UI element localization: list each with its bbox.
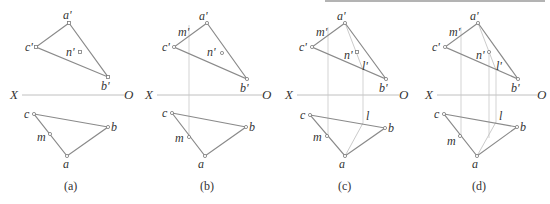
label-c: c — [24, 107, 30, 121]
label-b: b — [388, 121, 394, 135]
label-a: a — [63, 157, 69, 171]
caption-a: (a) — [64, 179, 77, 193]
label-a-prime: a' — [470, 9, 479, 23]
label-b-prime: b' — [379, 81, 388, 95]
label-c: c — [300, 108, 306, 122]
label-l-prime: l' — [496, 59, 502, 73]
axis-label-o: O — [262, 87, 272, 102]
label-b: b — [520, 120, 526, 134]
label-n-prime: n' — [344, 48, 353, 62]
point-c — [442, 112, 445, 115]
label-m: m — [37, 130, 46, 144]
label-m-prime: m' — [316, 25, 328, 39]
caption-b: (b) — [200, 179, 214, 193]
point-c — [32, 112, 35, 115]
label-n-prime: n' — [66, 45, 75, 59]
label-a-prime: a' — [337, 9, 346, 23]
label-a-prime: a' — [63, 8, 72, 22]
axis-label-o: O — [124, 87, 134, 102]
label-c-prime: c' — [432, 40, 440, 54]
auxiliary-line-a-l — [345, 123, 363, 156]
label-n-prime: n' — [207, 45, 216, 59]
label-a: a — [339, 157, 345, 171]
label-m: m — [313, 130, 322, 144]
label-c: c — [434, 107, 440, 121]
label-m-prime: m' — [449, 25, 461, 39]
label-b: b — [111, 120, 117, 134]
axis-label-o: O — [537, 87, 547, 102]
label-b: b — [249, 120, 255, 134]
point-m — [325, 134, 328, 137]
label-c: c — [162, 106, 168, 120]
auxiliary-line-a-l — [477, 122, 496, 156]
label-l-prime: l' — [362, 59, 368, 73]
panel-a: X O a' c' n' b' c b m a (a) — [9, 8, 134, 193]
label-c-prime: c' — [162, 40, 170, 54]
point-m — [187, 135, 190, 138]
label-c-prime: c' — [25, 40, 33, 54]
point-n-prime — [356, 51, 359, 54]
point-b — [106, 125, 109, 128]
point-c — [170, 111, 173, 114]
point-b — [244, 125, 247, 128]
label-b-prime: b' — [240, 81, 249, 95]
projection-diagram: X O a' c' n' b' c b m a (a) X O — [0, 0, 550, 204]
caption-c: (c) — [338, 179, 351, 193]
label-n-prime: n' — [476, 48, 485, 62]
panel-d: X O a' m' c' n' l' b' c l b m a (d) — [424, 9, 547, 193]
label-a: a — [472, 157, 478, 171]
point-b — [383, 126, 386, 129]
axis-label-x: X — [424, 87, 434, 102]
axis-label-x: X — [284, 87, 294, 102]
label-b-prime: b' — [101, 79, 110, 93]
point-n-prime — [79, 51, 82, 54]
point-c-prime — [443, 45, 446, 48]
label-l: l — [366, 109, 370, 123]
axis-label-x: X — [144, 87, 154, 102]
point-c-prime — [35, 46, 38, 49]
panel-b: X O a' m' c' n' b' c b m a (b) — [144, 9, 272, 193]
axis-label-x: X — [9, 87, 19, 102]
label-l: l — [499, 109, 503, 123]
label-m: m — [175, 131, 184, 145]
point-c — [308, 113, 311, 116]
point-c-prime — [310, 45, 313, 48]
point-m — [48, 132, 51, 135]
panel-c: X O a' m' c' n' l' b' c l b m a (c) — [284, 9, 409, 193]
label-a: a — [198, 157, 204, 171]
caption-d: (d) — [472, 179, 486, 193]
label-b-prime: b' — [511, 81, 520, 95]
label-m: m — [447, 134, 456, 148]
label-a-prime: a' — [199, 9, 208, 23]
point-b — [515, 125, 518, 128]
label-m-prime: m' — [178, 25, 190, 39]
label-c-prime: c' — [299, 40, 307, 54]
point-m — [458, 134, 461, 137]
axis-label-o: O — [399, 87, 409, 102]
point-n-prime — [487, 50, 490, 53]
point-n-prime — [220, 51, 223, 54]
point-c-prime — [172, 45, 175, 48]
